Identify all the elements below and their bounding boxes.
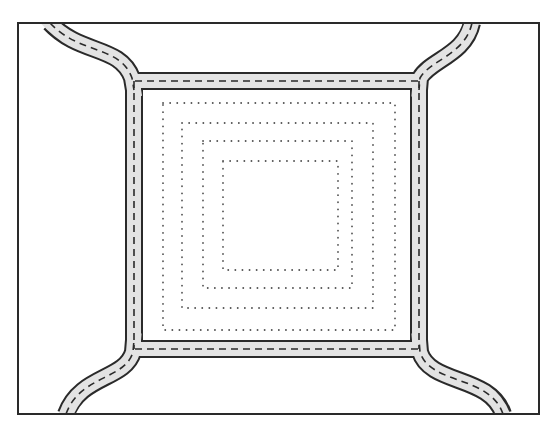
roads-fill	[50, 23, 503, 414]
frame-margin	[0, 0, 556, 23]
road-curve-top-right-surface	[419, 23, 472, 90]
dotted-squares	[163, 103, 395, 330]
diagram-canvas	[0, 0, 556, 429]
dotted-square-3	[203, 141, 352, 288]
dotted-square-1	[163, 103, 395, 330]
dotted-square-2	[182, 123, 373, 308]
dotted-square-4	[223, 161, 338, 270]
site-plan-diagram	[0, 0, 556, 429]
frame-margin	[539, 0, 556, 429]
frame-margin	[0, 414, 556, 429]
frame-margin	[0, 0, 18, 429]
